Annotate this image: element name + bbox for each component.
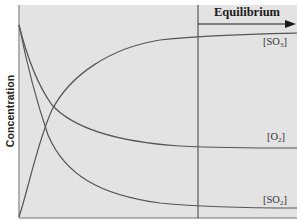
series-label-o2-close: ] [282, 131, 286, 142]
series-label-so2-main: [SO [263, 194, 280, 205]
series-label-so3-main: [SO [263, 36, 280, 47]
series-label-so3-close: ] [283, 36, 287, 47]
y-axis-label: Concentration [3, 64, 17, 159]
series-label-so3: [SO3] [263, 36, 287, 49]
series-label-o2: [O2] [267, 131, 285, 144]
series-label-so2-close: ] [283, 194, 287, 205]
series-label-so2: [SO2] [263, 194, 287, 207]
chart-canvas [0, 0, 297, 224]
plot-area [19, 5, 297, 218]
series-label-o2-main: [O [267, 131, 278, 142]
equilibrium-label: Equilibrium [214, 5, 280, 20]
